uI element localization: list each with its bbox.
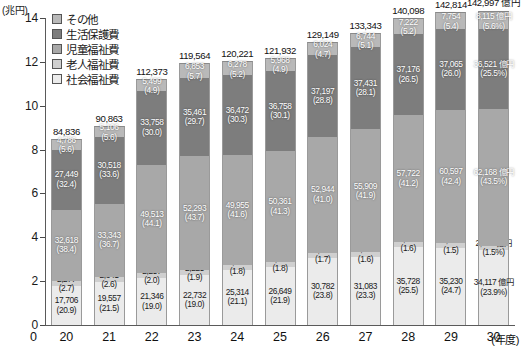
bar-segment[interactable]: 26,649(21.9): [265, 267, 296, 325]
bar-segment[interactable]: 35,230(24.7): [435, 248, 466, 325]
bar-segment[interactable]: 6,278(5.2): [222, 61, 253, 75]
segment-percent: (1.5): [443, 245, 458, 255]
bar-segment[interactable]: 27,449(32.4): [51, 150, 82, 210]
bar-segment[interactable]: 2,277(2.7): [51, 281, 82, 286]
bar-column[interactable]: 30,782(23.8)2,202(1.7)52,944(41.0)37,197…: [307, 42, 338, 325]
bar-segment[interactable]: 32,618(38.4): [51, 210, 82, 282]
bar-column[interactable]: 17,706(20.9)2,277(2.7)32,618(38.4)27,449…: [51, 139, 82, 325]
bar-segment[interactable]: 36,758(30.1): [265, 71, 296, 152]
bar-segment[interactable]: 5,968(4.9): [265, 58, 296, 71]
bar-segment[interactable]: 37,176(26.5): [393, 34, 424, 116]
segment-percent: (5.4): [443, 21, 458, 31]
bar-segment[interactable]: 6,744(5.1): [350, 33, 381, 48]
bar-total-label: 142,997 億円: [467, 0, 520, 9]
segment-percent: (21.1): [228, 296, 247, 306]
bar-segment[interactable]: 36,472(30.3): [222, 75, 253, 155]
y-axis-tick-label: 12: [0, 55, 38, 69]
segment-percent: (25.5): [398, 285, 417, 295]
segment-percent: (26.5): [398, 74, 417, 84]
bar-segment[interactable]: 35,461(29.7): [179, 78, 210, 156]
bar-segment[interactable]: 49,513(44.1): [136, 165, 167, 274]
bar-segment-label: 30,782(23.8): [311, 282, 334, 300]
bar-segment-label: 37,065(26.0): [439, 60, 462, 78]
segment-percent: (1.7): [315, 254, 330, 264]
bar-segment[interactable]: 2,341(2.6): [94, 277, 125, 282]
bar-column[interactable]: 35,230(24.7)2,168(1.5)60,597(42.4)37,065…: [435, 12, 466, 325]
bar-segment-label: 35,230(24.7): [439, 277, 462, 295]
bar-segment[interactable]: 50,361(41.3): [265, 151, 296, 261]
bar-segment-label: 6,278(5.2): [228, 60, 247, 78]
bar-segment[interactable]: 30,782(23.8): [307, 258, 338, 326]
bar-column[interactable]: 21,346(19.0)2,257(2.0)49,513(44.1)33,758…: [136, 79, 167, 325]
bar-segment-label: 34,117 億円(23.9%): [474, 278, 514, 296]
legend-label-roujinfukushihi: 老人福祉費: [66, 56, 119, 72]
segment-percent: (21.9): [270, 295, 289, 305]
bar-segment-label: 5,499(4.9): [142, 77, 161, 95]
bar-column[interactable]: 25,314(21.1)2,202(1.8)49,955(41.6)36,472…: [222, 61, 253, 325]
bar-segment[interactable]: 52,944(41.0): [307, 137, 338, 253]
bar-segment[interactable]: 2,200(1.6): [393, 242, 424, 247]
y-axis: (兆円): [0, 0, 40, 356]
bar-segment[interactable]: 7,754(5.4): [435, 12, 466, 29]
bar-segment-label: 36,521 億円(25.5%): [473, 60, 513, 78]
bar-segment[interactable]: 36,521 億円(25.5%): [478, 29, 509, 109]
bar-segment-label: 60,597(42.4): [439, 167, 462, 185]
segment-percent: (1.6): [358, 254, 373, 264]
bar-segment[interactable]: 4,786(5.6): [51, 139, 82, 149]
segment-percent: (1.8): [230, 266, 245, 276]
bar-column[interactable]: 26,649(21.9)2,196(1.8)50,361(41.3)36,758…: [265, 58, 296, 325]
bar-segment[interactable]: 37,431(28.1): [350, 47, 381, 129]
bar-segment[interactable]: 34,117 億円(23.9%): [478, 250, 509, 325]
bar-segment[interactable]: 5,499(4.9): [136, 79, 167, 91]
bar-segment[interactable]: 30,518(33.6): [94, 137, 125, 204]
bar-segment[interactable]: 2,176(1.6): [350, 252, 381, 257]
bar-segment-label: 52,944(41.0): [311, 185, 334, 203]
bar-segment[interactable]: 2,225(1.9): [179, 270, 210, 275]
bar-segment[interactable]: 2,196(1.8): [265, 262, 296, 267]
bar-segment-label: 27,449(32.4): [55, 170, 78, 188]
bar-column[interactable]: 35,728(25.5)2,200(1.6)57,722(41.2)37,176…: [393, 18, 424, 325]
segment-percent: (2.6): [101, 279, 116, 289]
bar-segment-label: 36,472(30.3): [226, 106, 249, 124]
bar-segment[interactable]: 7,222(5.2): [393, 18, 424, 34]
segment-percent: (21.5): [99, 303, 118, 313]
legend-item: 老人福祉費: [52, 57, 119, 71]
bar-segment[interactable]: 25,314(21.1): [222, 270, 253, 326]
bar-segment[interactable]: 6,024(4.7): [307, 42, 338, 55]
bar-segment[interactable]: 52,293(43.7): [179, 156, 210, 271]
legend-label-seikatsuhogohi: 生活保護費: [66, 26, 119, 42]
bar-segment[interactable]: 8,115 億円(5.6%): [478, 11, 509, 29]
bar-segment[interactable]: 37,197(28.8): [307, 55, 338, 137]
bar-segment[interactable]: 33,343(36.7): [94, 204, 125, 277]
bar-segment[interactable]: 60,597(42.4): [435, 110, 466, 243]
bar-column[interactable]: 19,557(21.5)2,341(2.6)33,343(36.7)30,518…: [94, 126, 125, 325]
bar-segment[interactable]: 2,202(1.8): [222, 265, 253, 270]
legend-item: その他: [52, 12, 119, 26]
bar-segment[interactable]: 2,076 億円(1.5%): [478, 246, 509, 251]
bar-segment[interactable]: 2,257(2.0): [136, 273, 167, 278]
bar-segment[interactable]: 31,083(23.3): [350, 257, 381, 325]
bar-segment[interactable]: 57,722(41.2): [393, 115, 424, 242]
bar-total-label: 129,149: [307, 29, 339, 40]
bar-segment[interactable]: 55,909(41.9): [350, 129, 381, 252]
bar-column[interactable]: 22,732(19.0)2,225(1.9)52,293(43.7)35,461…: [179, 63, 210, 325]
bar-column[interactable]: 31,083(23.3)2,176(1.6)55,909(41.9)37,431…: [350, 33, 381, 325]
bar-segment[interactable]: 21,346(19.0): [136, 278, 167, 325]
segment-percent: (23.8): [313, 290, 332, 300]
bar-segment[interactable]: 35,728(25.5): [393, 247, 424, 325]
bar-segment[interactable]: 49,955(41.6): [222, 155, 253, 265]
bar-segment[interactable]: 33,758(30.0): [136, 91, 167, 165]
bar-segment[interactable]: 2,168(1.5): [435, 243, 466, 248]
bar-segment[interactable]: 62,168 億円(43.5%): [478, 109, 509, 245]
bar-segment[interactable]: 2,202(1.7): [307, 253, 338, 258]
bar-segment[interactable]: 6,853(5.7): [179, 63, 210, 78]
bar-segment[interactable]: 37,065(26.0): [435, 29, 466, 110]
bar-segment-label: 36,758(30.1): [268, 102, 291, 120]
bar-segment[interactable]: 5,106(5.6): [94, 126, 125, 137]
segment-percent: (41.9): [356, 190, 375, 200]
segment-percent: (5.6): [101, 132, 116, 142]
segment-percent: (4.9): [144, 85, 159, 95]
bar-column[interactable]: 34,117 億円(23.9%)2,076 億円(1.5%)62,168 億円(…: [478, 11, 509, 325]
bar-segment[interactable]: 22,732(19.0): [179, 275, 210, 325]
legend-swatch-sonota: [52, 14, 62, 24]
